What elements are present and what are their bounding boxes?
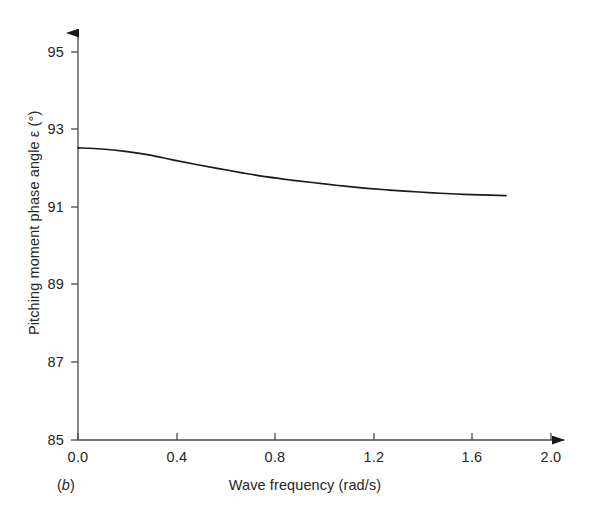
data-series-line (78, 148, 506, 196)
figure-panel-b: 95 93 91 89 87 85 0.0 0.4 0.8 1.2 1.6 2.… (0, 0, 604, 513)
x-tick-label-1-2: 1.2 (364, 449, 385, 465)
x-tick-label-0-4: 0.4 (167, 449, 188, 465)
x-axis-title: Wave frequency (rad/s) (229, 477, 381, 493)
x-tick-label-1-6: 1.6 (462, 449, 483, 465)
x-tick-label-0-0: 0.0 (68, 449, 89, 465)
panel-caption-letter: b (62, 477, 70, 493)
y-axis-title: Pitching moment phase angle ε (°) (26, 111, 42, 335)
y-tick-label-95: 95 (36, 44, 64, 60)
chart-canvas (0, 0, 604, 513)
x-tick-label-2-0: 2.0 (541, 449, 562, 465)
y-axis-ticks (71, 52, 78, 440)
x-axis-ticks (78, 433, 551, 440)
panel-caption: (b) (57, 477, 75, 493)
y-tick-label-85: 85 (36, 432, 64, 448)
panel-caption-close-paren: ) (70, 477, 75, 493)
y-tick-label-87: 87 (36, 354, 64, 370)
x-tick-label-0-8: 0.8 (265, 449, 286, 465)
